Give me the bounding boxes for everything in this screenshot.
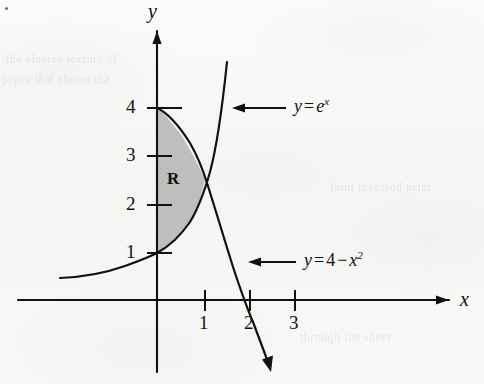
exp-label-exponent: x bbox=[324, 95, 329, 107]
x-tick-label-3: 3 bbox=[289, 312, 299, 334]
y-tick-label-1: 1 bbox=[126, 241, 136, 263]
x-tick-label-2: 2 bbox=[244, 312, 254, 334]
parabola-tail bbox=[253, 322, 268, 362]
parabola-label-constant: 4 bbox=[326, 250, 335, 270]
parabola-arrow-icon bbox=[262, 356, 273, 373]
exp-label-arrow-left-icon bbox=[232, 103, 245, 112]
region-label-R: R bbox=[167, 169, 179, 189]
y-axis-label: y bbox=[148, 0, 157, 23]
exp-label-equals: = bbox=[302, 96, 316, 116]
y-axis-arrow-icon bbox=[152, 31, 161, 44]
parabola-label-lhs: y bbox=[304, 250, 312, 270]
exp-label-base: e bbox=[316, 96, 324, 116]
y-tick-label-2: 2 bbox=[126, 193, 136, 215]
parabola-curve-label: y=4−x2 bbox=[304, 249, 363, 271]
figure-page: the elusive texture of paper that shows … bbox=[0, 0, 484, 384]
exp-curve-label: y=ex bbox=[294, 95, 329, 117]
exp-label-lhs: y bbox=[294, 96, 302, 116]
parabola-label-arrow-left-icon bbox=[248, 257, 261, 266]
parabola-label-exponent: 2 bbox=[357, 249, 363, 261]
parabola-label-minus: − bbox=[335, 250, 349, 270]
graph-canvas bbox=[0, 0, 484, 384]
x-tick-label-1: 1 bbox=[199, 312, 209, 334]
y-tick-label-4: 4 bbox=[126, 96, 136, 118]
x-axis-arrow-icon bbox=[436, 295, 449, 304]
x-axis-label: x bbox=[460, 288, 469, 311]
y-tick-label-3: 3 bbox=[126, 144, 136, 166]
parabola-label-equals: = bbox=[312, 250, 326, 270]
